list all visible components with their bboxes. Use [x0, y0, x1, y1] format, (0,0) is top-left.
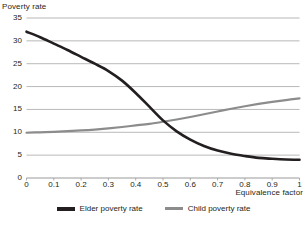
legend-entry: Child poverty rate [165, 204, 251, 213]
x-axis-title: Equivalence factor [235, 188, 303, 198]
y-axis-tick-label: 35 [0, 14, 22, 22]
legend-swatch [57, 207, 75, 211]
y-axis-tick-label: 5 [0, 151, 22, 159]
y-axis-tick-label: 15 [0, 105, 22, 113]
y-axis-tick-label: 10 [0, 128, 22, 136]
x-axis-tick-label: 0 [15, 181, 39, 189]
legend-label: Elder poverty rate [80, 204, 143, 213]
x-axis-tick-label: 0.6 [178, 181, 202, 189]
data-series-group [27, 32, 300, 160]
x-axis-tick-label: 0.1 [42, 181, 66, 189]
legend-label: Child poverty rate [188, 204, 251, 213]
gridlines [27, 18, 300, 155]
y-axis-tick-label: 25 [0, 60, 22, 68]
legend-entry: Elder poverty rate [57, 204, 143, 213]
legend-swatch [165, 207, 183, 210]
chart-legend: Elder poverty rateChild poverty rate [0, 204, 307, 213]
x-axis-tick-label: 0.3 [96, 181, 120, 189]
x-axis-tick-label: 0.5 [151, 181, 175, 189]
cut-off-source-note [30, 224, 240, 228]
x-axis-tick-label: 0.2 [69, 181, 93, 189]
x-axis-tick-label: 0.4 [124, 181, 148, 189]
y-axis-tick-label: 30 [0, 37, 22, 45]
x-axis-tick-label: 0.7 [206, 181, 230, 189]
y-axis-tick-label: 20 [0, 83, 22, 91]
poverty-rate-line-chart: Poverty rate 05101520253035 00.10.20.30.… [0, 0, 307, 229]
